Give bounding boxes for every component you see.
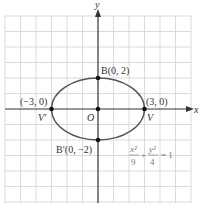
eq-y-den: 4 <box>150 157 155 167</box>
ellipse-diagram: x y B(0, 2) B′(0, −2) (3, 0) (−3, 0) V V… <box>0 0 200 215</box>
x-axis-label: x <box>193 104 199 115</box>
point-B <box>96 76 101 81</box>
label-O: O <box>87 112 94 123</box>
label-B-prime: B′(0, −2) <box>56 144 92 156</box>
eq-rhs: = 1 <box>161 150 173 160</box>
x-axis-arrow-icon <box>186 106 194 112</box>
point-V-prime <box>49 107 54 112</box>
point-O <box>96 107 101 112</box>
label-B: B(0, 2) <box>101 65 129 77</box>
eq-plus: + <box>141 150 146 160</box>
label-V-prime-coord: (−3, 0) <box>20 96 47 108</box>
label-V-coord: (3, 0) <box>146 96 168 108</box>
y-axis-label: y <box>94 0 100 10</box>
eq-x-den: 9 <box>131 157 136 167</box>
point-V <box>142 107 147 112</box>
y-axis-arrow-icon <box>95 9 101 17</box>
label-V: V <box>147 112 155 123</box>
eq-x-num: x² <box>129 144 137 154</box>
point-B-prime <box>96 138 101 143</box>
eq-y-num: y² <box>148 144 156 154</box>
label-V-prime: V′ <box>38 112 47 123</box>
